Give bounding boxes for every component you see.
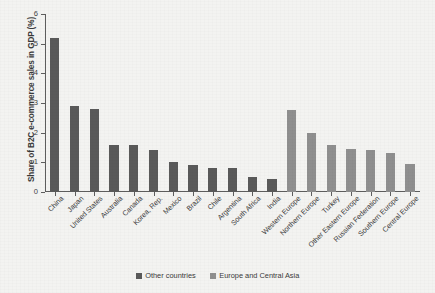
legend-label: Other countries (145, 271, 196, 280)
chart-legend: Other countriesEurope and Central Asia (0, 271, 435, 280)
bar (287, 110, 296, 192)
bar (267, 179, 276, 192)
bar-series-container (45, 14, 420, 192)
y-tick-label: 0 (34, 187, 38, 196)
legend-swatch-icon (210, 273, 216, 279)
bar (327, 145, 336, 192)
legend-label: Europe and Central Asia (219, 271, 299, 280)
bar (70, 106, 79, 192)
plot-area: 0123456 (45, 14, 420, 192)
x-axis-labels: ChinaJapanUnited StatesAustraliaCanadaKo… (45, 192, 420, 264)
legend-swatch-icon (136, 273, 142, 279)
legend-item-other[interactable]: Other countries (136, 271, 196, 280)
bar (248, 177, 257, 192)
x-axis-label: China (46, 194, 65, 213)
y-tick-label: 3 (34, 98, 38, 107)
bar (307, 133, 316, 192)
x-axis-label: Mexico (161, 194, 183, 216)
legend-item-europe[interactable]: Europe and Central Asia (210, 271, 300, 280)
bar (149, 150, 158, 192)
bar-chart-figure: Share of B2C e-commerce sales in GDP (%)… (0, 0, 435, 293)
bar (386, 153, 395, 192)
bar (50, 38, 59, 192)
y-tick-label: 4 (34, 68, 38, 77)
y-tick-label: 6 (34, 9, 38, 18)
bar (366, 150, 375, 192)
y-tick-label: 5 (34, 39, 38, 48)
bar (346, 149, 355, 192)
bar (208, 168, 217, 192)
bar (129, 145, 138, 192)
bar (228, 168, 237, 192)
bar (109, 145, 118, 192)
bar (188, 165, 197, 192)
bar (405, 164, 414, 192)
bar (169, 162, 178, 192)
x-axis-label: Brazil (185, 194, 204, 213)
bar (90, 109, 99, 192)
y-tick-label: 1 (34, 157, 38, 166)
y-tick-label: 2 (34, 128, 38, 137)
